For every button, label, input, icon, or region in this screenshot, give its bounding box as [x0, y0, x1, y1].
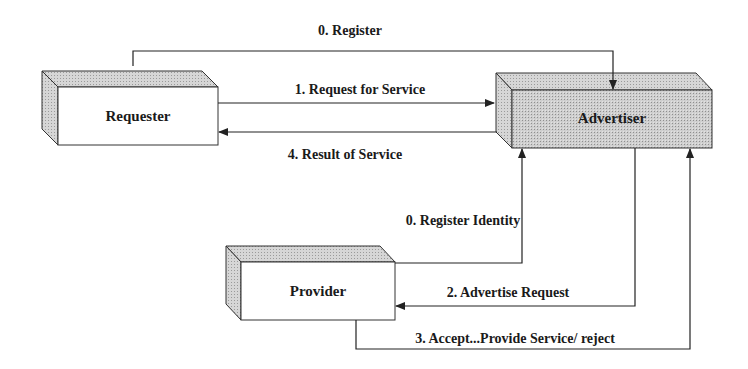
requester-label: Requester	[106, 108, 171, 124]
edge-request-label: 1. Request for Service	[295, 82, 425, 97]
advertiser-node[interactable]: Advertiser	[496, 73, 712, 148]
provider-label: Provider	[290, 283, 347, 299]
edge-register-identity: 0. Register Identity	[395, 149, 522, 263]
edge-request: 1. Request for Service	[218, 82, 494, 103]
edge-advertise-label: 2. Advertise Request	[447, 285, 570, 300]
advertiser-label: Advertiser	[578, 110, 647, 126]
edge-register-label: 0. Register	[318, 23, 382, 38]
edge-result-label: 4. Result of Service	[288, 147, 402, 162]
edge-accept-label: 3. Accept...Provide Service/ reject	[415, 331, 615, 346]
edge-accept: 3. Accept...Provide Service/ reject	[356, 149, 690, 349]
edge-register-identity-label: 0. Register Identity	[406, 213, 520, 228]
edge-result: 4. Result of Service	[219, 132, 497, 162]
provider-node[interactable]: Provider	[226, 246, 395, 320]
diagram-canvas: Requester Advertiser Provider 0. Registe…	[0, 0, 748, 369]
requester-node[interactable]: Requester	[42, 71, 218, 145]
